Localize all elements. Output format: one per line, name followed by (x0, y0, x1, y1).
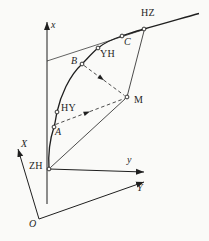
label-point-m: M (134, 95, 143, 105)
label-point-c: C (124, 37, 131, 47)
label-global-y-axis: Y (137, 183, 143, 193)
point-hy (55, 110, 59, 114)
arrowhead-b-m (97, 75, 105, 83)
arrowhead-a-m (83, 109, 91, 116)
point-zh (47, 167, 51, 171)
point-m (125, 95, 129, 99)
label-global-x-axis: X (21, 139, 27, 149)
global-y-axis (39, 182, 144, 219)
label-local-x-axis: x (51, 20, 56, 30)
local-y-axis (49, 169, 144, 172)
label-point-hz: HZ (141, 8, 155, 18)
dashed-ray-b-m (84, 66, 125, 96)
label-point-zh: ZH (29, 161, 43, 171)
figure-canvas: x HZ C YH B M HY A ZH y Y X O (0, 0, 209, 241)
diagram-svg (0, 0, 209, 241)
label-point-b: B (71, 56, 77, 66)
label-point-yh: YH (100, 49, 115, 59)
point-b (80, 62, 84, 66)
label-local-y-axis: y (127, 155, 132, 165)
label-point-a: A (55, 127, 61, 137)
label-global-origin: O (29, 219, 36, 229)
label-point-hy: HY (61, 103, 76, 113)
point-hz (142, 27, 146, 31)
